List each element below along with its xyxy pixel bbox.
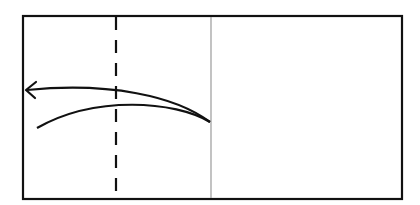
- paper-outline: [23, 16, 402, 199]
